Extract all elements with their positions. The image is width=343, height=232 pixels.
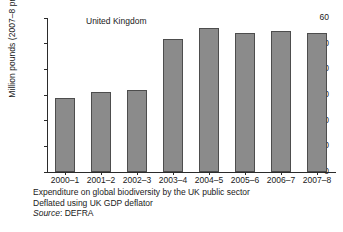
bar-slot	[199, 18, 219, 172]
source-word: Source	[33, 208, 60, 218]
bar[interactable]	[307, 33, 327, 172]
bar[interactable]	[127, 90, 147, 172]
source-value: : DEFRA	[60, 208, 94, 218]
bar-slot	[307, 18, 327, 172]
bar[interactable]	[271, 31, 291, 172]
caption-line-1: Expenditure on global biodiversity by th…	[33, 187, 333, 198]
caption-source: Source: DEFRA	[33, 208, 333, 219]
plot-area: 0102030405060	[47, 18, 335, 172]
bar[interactable]	[91, 92, 111, 172]
chart-caption: Expenditure on global biodiversity by th…	[33, 187, 333, 219]
x-tick-label: 2001–2	[83, 175, 119, 186]
bar[interactable]	[163, 39, 183, 172]
bar-slot	[163, 18, 183, 172]
bar[interactable]	[235, 33, 255, 172]
x-tick-label: 2002–3	[119, 175, 155, 186]
chart-figure: United Kingdom Million pounds (2007–8 pr…	[0, 0, 343, 232]
bar[interactable]	[199, 28, 219, 172]
x-tick-label: 2004–5	[191, 175, 227, 186]
bar-slot	[91, 18, 111, 172]
x-tick-label: 2000–1	[47, 175, 83, 186]
bar-slot	[127, 18, 147, 172]
bar-slot	[271, 18, 291, 172]
x-tick-label: 2003–4	[155, 175, 191, 186]
caption-line-2: Deflated using UK GDP deflator	[33, 198, 333, 209]
x-tick-label: 2007–8	[299, 175, 335, 186]
bar-slot	[235, 18, 255, 172]
bar-slot	[55, 18, 75, 172]
y-axis-label: Million pounds (2007–8 prices)	[7, 0, 17, 109]
bar[interactable]	[55, 98, 75, 172]
bar-series	[47, 18, 335, 172]
x-tick-label: 2006–7	[263, 175, 299, 186]
x-tick-label: 2005–6	[227, 175, 263, 186]
x-axis-line	[47, 172, 336, 173]
